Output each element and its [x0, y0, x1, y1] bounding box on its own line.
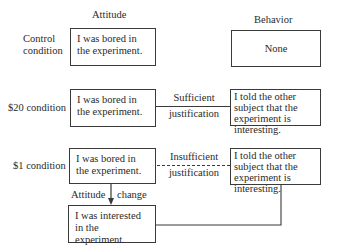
- attitude-change-result-box: I was interested in the experiment.: [68, 205, 156, 243]
- attitude-change-arrow-icon: [0, 0, 337, 250]
